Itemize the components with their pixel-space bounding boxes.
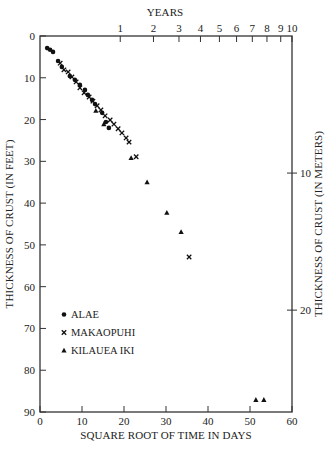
crust-thickness-chart: 0102030405060010203040506070809010201234… bbox=[0, 0, 328, 450]
y-tick-label: 20 bbox=[24, 114, 36, 126]
legend-marker-makaopuhi bbox=[62, 330, 66, 334]
y-axis-title: THICKNESS OF CRUST (IN FEET) bbox=[3, 139, 16, 308]
x2-tick-label: 3 bbox=[176, 22, 182, 34]
x-axis-title: SQUARE ROOT OF TIME IN DAYS bbox=[80, 429, 252, 441]
y-tick-label: 40 bbox=[24, 197, 36, 209]
y2-axis-title: THICKNESS OF CRUST (IN METERS) bbox=[312, 131, 325, 317]
makaopuhi-point bbox=[120, 131, 124, 135]
x2-tick-label: 6 bbox=[234, 22, 240, 34]
alae-point bbox=[107, 126, 112, 131]
makaopuhi-point bbox=[124, 136, 128, 140]
legend-label-alae: ALAE bbox=[71, 309, 99, 320]
y2-tick-label: 20 bbox=[300, 304, 312, 316]
x2-tick-label: 10 bbox=[287, 22, 299, 34]
x2-axis-title: YEARS bbox=[147, 6, 184, 18]
makaopuhi-point bbox=[116, 127, 120, 131]
makaopuhi-point bbox=[103, 114, 107, 118]
legend-label-kilauea-iki: KILAUEA IKI bbox=[71, 345, 135, 356]
alae-point bbox=[51, 50, 56, 55]
legend-marker-alae bbox=[62, 312, 67, 317]
x2-tick-label: 1 bbox=[117, 22, 123, 34]
kilauea-iki-point bbox=[253, 397, 258, 402]
legend-marker-kilauea-iki bbox=[61, 348, 66, 353]
x-tick-label: 10 bbox=[77, 415, 89, 427]
x-tick-label: 50 bbox=[245, 415, 257, 427]
y-tick-label: 80 bbox=[24, 364, 36, 376]
kilauea-iki-point bbox=[164, 210, 169, 215]
makaopuhi-point bbox=[108, 118, 112, 122]
y-tick-label: 50 bbox=[24, 239, 36, 251]
x-tick-label: 60 bbox=[287, 415, 299, 427]
y2-tick-label: 10 bbox=[300, 167, 312, 179]
makaopuhi-point bbox=[66, 70, 70, 74]
kilauea-iki-point bbox=[93, 108, 98, 113]
x-tick-label: 30 bbox=[161, 415, 173, 427]
x2-tick-label: 4 bbox=[198, 22, 204, 34]
x2-tick-label: 5 bbox=[217, 22, 223, 34]
x-tick-label: 40 bbox=[203, 415, 215, 427]
x-tick-label: 0 bbox=[37, 415, 43, 427]
y-tick-label: 30 bbox=[24, 155, 36, 167]
x2-tick-label: 9 bbox=[278, 22, 284, 34]
x2-tick-label: 7 bbox=[250, 22, 256, 34]
x-tick-label: 20 bbox=[119, 415, 131, 427]
kilauea-iki-point bbox=[145, 179, 150, 184]
makaopuhi-point bbox=[62, 68, 66, 72]
x2-tick-label: 8 bbox=[264, 22, 270, 34]
kilauea-iki-point bbox=[129, 155, 134, 160]
legend-label-makaopuhi: MAKAOPUHI bbox=[71, 327, 136, 338]
x2-tick-label: 2 bbox=[151, 22, 157, 34]
makaopuhi-point bbox=[134, 155, 138, 159]
y-tick-label: 10 bbox=[24, 72, 36, 84]
kilauea-iki-point bbox=[179, 229, 184, 234]
y-tick-label: 0 bbox=[30, 30, 36, 42]
y-tick-label: 90 bbox=[24, 406, 36, 418]
makaopuhi-point bbox=[112, 122, 116, 126]
kilauea-iki-point bbox=[261, 397, 266, 402]
makaopuhi-point bbox=[187, 255, 191, 259]
y-tick-label: 60 bbox=[24, 281, 36, 293]
y-tick-label: 70 bbox=[24, 322, 36, 334]
makaopuhi-point bbox=[127, 140, 131, 144]
